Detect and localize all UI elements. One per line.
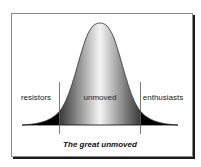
label-unmoved: unmoved bbox=[84, 93, 117, 102]
enthusiasts-region bbox=[141, 20, 181, 126]
unmoved-region bbox=[60, 20, 141, 126]
label-enthusiasts: enthusiasts bbox=[143, 93, 183, 102]
resistors-region bbox=[20, 20, 60, 126]
label-resistors: resistors bbox=[21, 93, 51, 102]
diagram-title: The great unmoved bbox=[63, 140, 137, 149]
